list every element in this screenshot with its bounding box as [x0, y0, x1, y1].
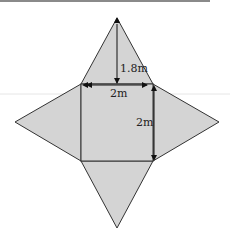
base-height-label: 2m	[136, 116, 154, 129]
left-triangle-face	[15, 84, 81, 161]
right-triangle-face	[153, 84, 219, 161]
slant-height-label: 1.8m	[120, 62, 148, 75]
pyramid-net-diagram: 1.8m 2m 2m	[0, 0, 230, 242]
base-width-label: 2m	[110, 87, 128, 100]
apex-arrowhead-icon	[114, 17, 120, 23]
bottom-triangle-face	[81, 161, 153, 228]
